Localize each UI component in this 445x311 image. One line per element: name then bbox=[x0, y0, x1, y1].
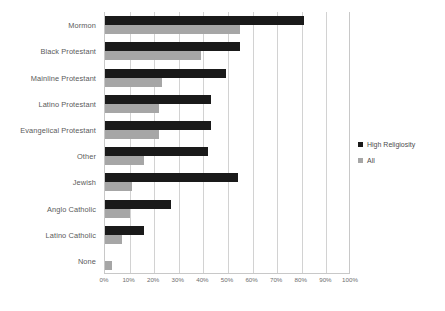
legend-item[interactable]: All bbox=[358, 156, 444, 165]
bar-all bbox=[105, 261, 112, 270]
bar-high-religiosity bbox=[105, 69, 226, 78]
bar-high-religiosity bbox=[105, 226, 144, 235]
x-tick-label: 30% bbox=[172, 276, 184, 283]
x-tick-label: 70% bbox=[270, 276, 282, 283]
x-tick-label: 0% bbox=[100, 276, 109, 283]
bar-chart: MormonBlack ProtestantMainline Protestan… bbox=[0, 0, 445, 311]
bar-group bbox=[105, 95, 350, 113]
bar-group bbox=[105, 121, 350, 139]
bar-high-religiosity bbox=[105, 16, 304, 25]
category-label: Latino Catholic bbox=[0, 230, 96, 239]
legend-swatch-icon bbox=[358, 142, 363, 147]
bar-group bbox=[105, 200, 350, 218]
bar-group bbox=[105, 42, 350, 60]
bar-high-religiosity bbox=[105, 121, 211, 130]
bar-all bbox=[105, 156, 144, 165]
bar-high-religiosity bbox=[105, 200, 171, 209]
bar-group bbox=[105, 16, 350, 34]
x-tick-label: 10% bbox=[122, 276, 134, 283]
bar-all bbox=[105, 209, 130, 218]
bar-group bbox=[105, 252, 350, 270]
x-tick-label: 20% bbox=[147, 276, 159, 283]
legend-label: High Religiosity bbox=[367, 141, 415, 148]
category-label: Anglo Catholic bbox=[0, 204, 96, 213]
bar-all bbox=[105, 78, 162, 87]
category-label: Latino Protestant bbox=[0, 99, 96, 108]
bar-all bbox=[105, 182, 132, 191]
bar-high-religiosity bbox=[105, 173, 238, 182]
legend-item[interactable]: High Religiosity bbox=[358, 140, 444, 149]
category-label: Other bbox=[0, 152, 96, 161]
legend-label: All bbox=[367, 157, 375, 164]
category-label: Mormon bbox=[0, 21, 96, 30]
bar-all bbox=[105, 51, 201, 60]
category-label: Mainline Protestant bbox=[0, 73, 96, 82]
bar-all bbox=[105, 25, 240, 34]
bar-group bbox=[105, 69, 350, 87]
category-label: Jewish bbox=[0, 178, 96, 187]
category-label: Evangelical Protestant bbox=[0, 125, 96, 134]
bar-group bbox=[105, 226, 350, 244]
bar-group bbox=[105, 173, 350, 191]
bar-high-religiosity bbox=[105, 95, 211, 104]
x-tick-label: 100% bbox=[342, 276, 358, 283]
bar-high-religiosity bbox=[105, 147, 208, 156]
plot-area bbox=[104, 12, 350, 274]
x-tick-label: 60% bbox=[245, 276, 257, 283]
bar-high-religiosity bbox=[105, 42, 240, 51]
x-tick-label: 80% bbox=[295, 276, 307, 283]
bar-all bbox=[105, 130, 159, 139]
category-label: None bbox=[0, 256, 96, 265]
bar-group bbox=[105, 147, 350, 165]
x-axis-tick-labels: 0%10%20%30%40%50%60%70%80%90%100% bbox=[104, 276, 350, 290]
bar-all bbox=[105, 104, 159, 113]
x-tick-label: 50% bbox=[221, 276, 233, 283]
x-tick-label: 40% bbox=[196, 276, 208, 283]
x-tick-label: 90% bbox=[319, 276, 331, 283]
legend-swatch-icon bbox=[358, 158, 363, 163]
category-axis-labels: MormonBlack ProtestantMainline Protestan… bbox=[0, 12, 100, 274]
bar-all bbox=[105, 235, 122, 244]
category-label: Black Protestant bbox=[0, 47, 96, 56]
chart-legend: High ReligiosityAll bbox=[358, 140, 444, 172]
